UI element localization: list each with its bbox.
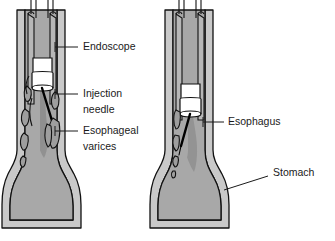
label-esophagus: Esophagus <box>203 115 281 127</box>
right-panel-group <box>150 0 229 228</box>
label-endoscope: Endoscope <box>55 40 136 52</box>
label-stomach: Stomach <box>224 166 315 190</box>
esophageal-varices-label-line1: Esophageal <box>83 124 138 136</box>
esophageal-varices-label-line2: varices <box>83 140 116 152</box>
esophagus-label: Esophagus <box>228 115 281 127</box>
figure-canvas: Endoscope Injection needle Esophageal va… <box>0 0 335 241</box>
endoscopy-figure: Endoscope Injection needle Esophageal va… <box>0 0 335 241</box>
injection-needle-label-line2: needle <box>83 103 115 115</box>
stomach-label: Stomach <box>273 166 315 178</box>
stomach-leader <box>224 176 268 190</box>
label-esophageal-varices: Esophageal varices <box>55 124 138 152</box>
endoscope-label: Endoscope <box>83 40 136 52</box>
left-panel-group <box>2 0 81 228</box>
injection-needle-label-line1: Injection <box>83 87 122 99</box>
